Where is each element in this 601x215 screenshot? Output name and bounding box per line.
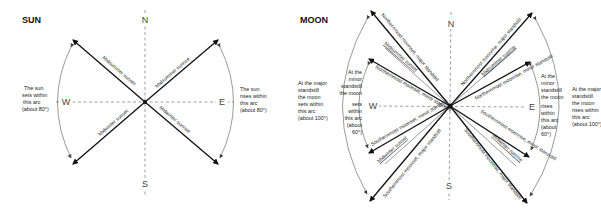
svg-text:At the: At the bbox=[541, 73, 555, 79]
svg-text:(about: (about bbox=[541, 124, 557, 130]
sun-diagram: SUN N S W E Midsummer sunset Midsummer s… bbox=[22, 10, 267, 196]
svg-text:this arc: this arc bbox=[240, 100, 258, 106]
svg-text:At the major: At the major bbox=[572, 86, 601, 92]
svg-text:sets: sets bbox=[352, 101, 362, 107]
svg-text:rises: rises bbox=[541, 103, 553, 109]
sun-label-midsummer-sunset: Midsummer sunset bbox=[101, 54, 137, 86]
svg-text:minor: minor bbox=[541, 80, 555, 86]
svg-text:(about 80°): (about 80°) bbox=[22, 106, 49, 112]
moon-east-outer-note: At the major standstill the moon rises w… bbox=[572, 86, 601, 127]
svg-text:this arc: this arc bbox=[345, 115, 363, 121]
sun-label-midwinter-sunrise: Midwinter sunrise bbox=[158, 104, 192, 134]
svg-text:the moon: the moon bbox=[340, 90, 362, 96]
svg-text:the moon: the moon bbox=[541, 94, 563, 100]
moon-west-label: W bbox=[369, 101, 378, 111]
sun-east-note: The sun rises within this arc (about 80°… bbox=[240, 86, 267, 113]
svg-text:At the major: At the major bbox=[298, 80, 327, 86]
svg-text:within: within bbox=[540, 110, 555, 116]
sun-south-label: S bbox=[142, 179, 148, 189]
moon-west-inner-note: At the minor standstill the moon sets wi… bbox=[340, 69, 363, 135]
svg-text:sets within: sets within bbox=[22, 92, 47, 98]
moon-north-label: N bbox=[448, 19, 455, 29]
moon-title: MOON bbox=[300, 15, 328, 25]
svg-text:The sun: The sun bbox=[240, 86, 259, 92]
sun-east-label: E bbox=[219, 97, 225, 107]
sun-label-midsummer-sunrise: Midsummer sunrise bbox=[154, 56, 191, 89]
sun-north-label: N bbox=[142, 15, 149, 25]
svg-text:60°): 60°) bbox=[352, 129, 362, 135]
svg-text:60°): 60°) bbox=[541, 131, 551, 137]
sun-ray-midwinter-sunset bbox=[73, 102, 145, 164]
svg-text:(about 100°): (about 100°) bbox=[572, 121, 601, 127]
sun-moon-alignment-diagram: SUN N S W E Midsummer sunset Midsummer s… bbox=[0, 0, 601, 215]
svg-text:this arc: this arc bbox=[572, 114, 590, 120]
sun-ray-midsummer-sunset bbox=[73, 40, 145, 102]
moon-label-southernmost-moonset-major: Southernmost moonset, major standstill bbox=[381, 128, 442, 199]
svg-text:this arc: this arc bbox=[541, 117, 559, 123]
svg-text:(about: (about bbox=[347, 122, 363, 128]
svg-text:rises within: rises within bbox=[572, 107, 599, 113]
svg-text:standstill: standstill bbox=[298, 87, 319, 93]
svg-text:minor: minor bbox=[349, 76, 363, 82]
moon-diagram: MOON N S W E Northernmost moonset, major… bbox=[298, 11, 601, 203]
svg-text:this arc: this arc bbox=[298, 108, 316, 114]
svg-text:this arc: this arc bbox=[23, 99, 41, 105]
svg-text:sets within: sets within bbox=[298, 101, 323, 107]
svg-text:(about 80°): (about 80°) bbox=[240, 107, 267, 113]
moon-label-midsummer-sunset: Midsummer sunset bbox=[383, 40, 419, 73]
moon-east-label: E bbox=[529, 102, 535, 112]
moon-south-label: S bbox=[446, 181, 452, 191]
sun-ray-midwinter-sunrise bbox=[145, 102, 218, 164]
moon-ray-northernmost-moonset-major bbox=[371, 11, 450, 106]
svg-text:The sun: The sun bbox=[24, 85, 43, 91]
svg-text:standstill: standstill bbox=[541, 87, 562, 93]
sun-ray-midsummer-sunrise bbox=[145, 40, 218, 102]
sun-observer-point bbox=[143, 100, 147, 104]
svg-text:At the: At the bbox=[348, 69, 362, 75]
sun-west-note: The sun sets within this arc (about 80°) bbox=[22, 85, 49, 112]
sun-title: SUN bbox=[22, 15, 41, 25]
svg-text:the moon: the moon bbox=[572, 100, 594, 106]
svg-text:within: within bbox=[347, 108, 362, 114]
moon-east-inner-note: At the minor standstill the moon rises w… bbox=[540, 73, 563, 137]
svg-text:the moon: the moon bbox=[298, 94, 320, 100]
sun-label-midwinter-sunset: Midwinter sunset bbox=[97, 107, 130, 136]
svg-text:(about 100°): (about 100°) bbox=[298, 115, 328, 121]
moon-west-outer-note: At the major standstill the moon sets wi… bbox=[298, 80, 328, 121]
sun-west-label: W bbox=[62, 97, 71, 107]
svg-text:standstill: standstill bbox=[572, 93, 593, 99]
svg-text:standstill: standstill bbox=[341, 83, 362, 89]
svg-text:rises within: rises within bbox=[240, 93, 267, 99]
